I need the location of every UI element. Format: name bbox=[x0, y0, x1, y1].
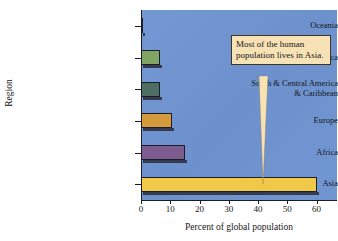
y-axis-line bbox=[141, 10, 142, 201]
y-tick bbox=[135, 26, 141, 27]
bar-africa bbox=[141, 145, 185, 160]
y-tick bbox=[135, 89, 141, 90]
x-tick-label: 60 bbox=[302, 204, 332, 214]
bar-fill bbox=[141, 82, 160, 97]
callout-annotation: Most of the human population lives in As… bbox=[231, 35, 331, 65]
bar-south-central-america-caribbean bbox=[141, 82, 160, 97]
x-tick-label: 50 bbox=[272, 204, 302, 214]
bar-shadow bbox=[143, 192, 319, 195]
x-tick-label: 10 bbox=[155, 204, 185, 214]
y-tick bbox=[135, 153, 141, 154]
bar-shadow bbox=[143, 97, 162, 100]
y-tick bbox=[135, 58, 141, 59]
bar-shadow bbox=[143, 160, 187, 163]
bar-north-america bbox=[141, 50, 160, 65]
y-tick bbox=[135, 121, 141, 122]
callout-leader-line bbox=[255, 76, 285, 184]
bar-fill bbox=[141, 145, 185, 160]
bar-shadow bbox=[143, 33, 145, 36]
y-tick bbox=[135, 184, 141, 185]
bar-fill bbox=[141, 113, 172, 128]
chart-figure: 0102030405060 AsiaAfricaEuropeSouth & Ce… bbox=[0, 0, 338, 241]
x-tick-label: 0 bbox=[126, 204, 156, 214]
x-tick-label: 30 bbox=[214, 204, 244, 214]
bar-fill bbox=[141, 50, 160, 65]
y-axis-title: Region bbox=[4, 63, 14, 123]
x-tick-label: 20 bbox=[185, 204, 215, 214]
x-tick-label: 40 bbox=[243, 204, 273, 214]
bar-shadow bbox=[143, 65, 162, 68]
bar-shadow bbox=[143, 128, 174, 131]
bar-europe bbox=[141, 113, 172, 128]
y-tick-label: Oceania bbox=[212, 21, 338, 31]
x-axis-title: Percent of global population bbox=[141, 222, 337, 232]
